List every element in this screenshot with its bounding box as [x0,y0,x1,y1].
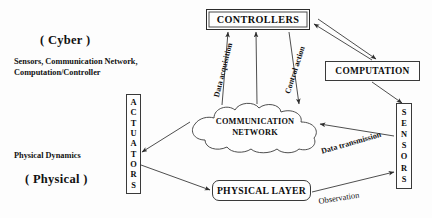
actuators-letter: A [130,98,136,107]
network-label-line-1: COMMUNICATION [184,117,326,128]
node-physical-layer[interactable]: PHYSICAL LAYER [212,180,311,201]
sensors-letter: O [401,152,408,161]
node-computation[interactable]: COMPUTATION [325,61,420,81]
sensors-letter: N [401,130,407,139]
cyber-domain-label: ( Cyber ) [40,33,90,48]
network-label-line-2: NETWORK [184,128,326,139]
physical-dynamics-label: Physical Dynamics [14,150,81,161]
physical-domain-label: ( Physical ) [25,172,88,187]
sensors-letter: R [401,164,407,173]
diagram-canvas: ( Cyber ) Sensors, Communication Network… [0,0,432,218]
actuators-letter: O [130,160,137,169]
edge-physical-to-sensors [312,172,394,192]
node-controllers[interactable]: CONTROLLERS [206,9,310,30]
communication-network-label: COMMUNICATION NETWORK [184,117,326,138]
edge-network-to-actuators [142,122,190,152]
cyber-domain-description: Sensors, Communication Network, Computat… [14,56,138,78]
cyber-description-line-1: Sensors, Communication Network, [14,56,138,67]
actuators-letter: T [131,150,137,159]
actuators-letter: C [130,108,136,117]
node-actuators[interactable]: A C T U A T O R S [126,94,141,194]
edge-sensors-to-network [320,124,394,136]
cyber-description-line-2: Computation/Controller [14,67,138,78]
edge-network-to-controllers-mid [256,32,257,104]
actuators-letter: A [130,139,136,148]
edge-computation-to-controllers [314,24,372,60]
edge-computation-to-sensors [372,82,402,103]
actuators-letter: U [130,129,136,138]
actuators-letter: R [130,170,136,179]
node-sensors[interactable]: S E N S O R S [396,103,412,189]
node-communication-network[interactable]: COMMUNICATION NETWORK [184,102,326,154]
sensors-letter: S [402,141,407,150]
edge-actuators-to-physical [141,165,210,190]
sensors-letter: S [402,108,407,117]
sensors-letter: S [402,175,407,184]
edge-controllers-to-computation [318,19,376,59]
sensors-letter: E [401,119,407,128]
actuators-letter: T [131,119,137,128]
actuators-letter: S [131,181,136,190]
